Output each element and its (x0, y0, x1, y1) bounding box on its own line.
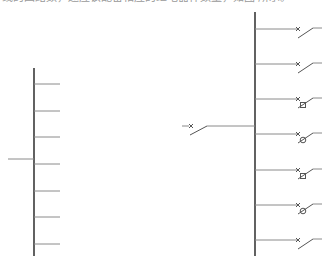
right-branch-6 (255, 203, 322, 214)
switch-blade-icon (298, 28, 313, 38)
left-busbar-group (8, 68, 60, 256)
right-busbar-group (182, 12, 322, 256)
single-line-diagram (0, 0, 331, 267)
incoming-switch (182, 124, 255, 135)
switch-blade-icon (298, 63, 313, 73)
right-branch-1 (255, 27, 322, 38)
right-branch-4 (255, 132, 322, 143)
right-branch-5 (255, 168, 322, 179)
right-branch-7 (255, 238, 322, 249)
switch-blade-icon (298, 239, 313, 249)
right-branch-3 (255, 97, 322, 108)
right-branch-2 (255, 62, 322, 73)
breaker-cross-icon (189, 124, 193, 128)
